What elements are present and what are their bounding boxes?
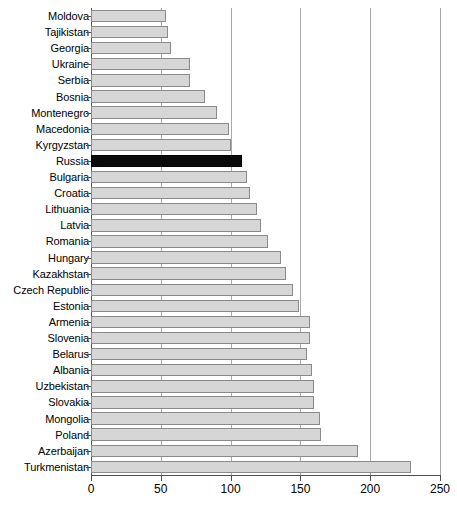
bar-row: Tajikistan bbox=[0, 24, 457, 40]
bar-poland bbox=[91, 428, 321, 440]
bar-lithuania bbox=[91, 203, 257, 215]
bar-estonia bbox=[91, 300, 299, 312]
category-label-georgia: Georgia bbox=[51, 40, 89, 56]
bar-row: Kazakhstan bbox=[0, 266, 457, 282]
category-label-poland: Poland bbox=[55, 427, 89, 443]
x-tick-mark-50 bbox=[161, 476, 162, 481]
category-label-hungary: Hungary bbox=[48, 250, 89, 266]
category-label-kyrgyzstan: Kyrgyzstan bbox=[36, 137, 89, 153]
category-label-latvia: Latvia bbox=[60, 217, 89, 233]
bar-row: Estonia bbox=[0, 298, 457, 314]
category-label-bosnia: Bosnia bbox=[56, 89, 89, 105]
x-tick-label-0: 0 bbox=[88, 482, 95, 496]
bar-row: Slovakia bbox=[0, 394, 457, 410]
bar-row: Georgia bbox=[0, 40, 457, 56]
x-tick-mark-250 bbox=[440, 476, 441, 481]
bar-row: Russia bbox=[0, 153, 457, 169]
bar-kazakhstan bbox=[91, 267, 286, 279]
bar-belarus bbox=[91, 348, 307, 360]
category-label-russia: Russia bbox=[56, 153, 89, 169]
bar-row: Czech Republic bbox=[0, 282, 457, 298]
bar-serbia bbox=[91, 74, 190, 86]
x-tick-label-250: 250 bbox=[430, 482, 450, 496]
bar-row: Moldova bbox=[0, 8, 457, 24]
x-axis-ticks: 050100150200250 bbox=[0, 476, 457, 506]
bar-georgia bbox=[91, 42, 171, 54]
bar-row: Albania bbox=[0, 362, 457, 378]
bar-row: Belarus bbox=[0, 346, 457, 362]
category-label-estonia: Estonia bbox=[53, 298, 89, 314]
category-label-slovenia: Slovenia bbox=[48, 330, 89, 346]
category-label-uzbekistan: Uzbekistan bbox=[36, 378, 89, 394]
bar-slovenia bbox=[91, 332, 310, 344]
bar-row: Latvia bbox=[0, 217, 457, 233]
x-tick-label-150: 150 bbox=[290, 482, 310, 496]
x-tick-mark-150 bbox=[300, 476, 301, 481]
bar-row: Romania bbox=[0, 233, 457, 249]
bar-row: Macedonia bbox=[0, 121, 457, 137]
bar-tajikistan bbox=[91, 26, 168, 38]
bar-row: Kyrgyzstan bbox=[0, 137, 457, 153]
bar-row: Mongolia bbox=[0, 411, 457, 427]
bar-bosnia bbox=[91, 90, 205, 102]
category-label-montenegro: Montenegro bbox=[31, 105, 89, 121]
bar-mongolia bbox=[91, 412, 320, 424]
bar-romania bbox=[91, 235, 268, 247]
bar-rows: MoldovaTajikistanGeorgiaUkraineSerbiaBos… bbox=[0, 0, 457, 475]
category-label-slovakia: Slovakia bbox=[48, 394, 89, 410]
category-label-tajikistan: Tajikistan bbox=[45, 24, 89, 40]
x-tick-mark-100 bbox=[231, 476, 232, 481]
bar-row: Armenia bbox=[0, 314, 457, 330]
bar-row: Ukraine bbox=[0, 56, 457, 72]
bar-czech-republic bbox=[91, 284, 293, 296]
category-label-belarus: Belarus bbox=[52, 346, 89, 362]
bar-row: Hungary bbox=[0, 250, 457, 266]
x-tick-mark-200 bbox=[370, 476, 371, 481]
bar-row: Lithuania bbox=[0, 201, 457, 217]
category-label-macedonia: Macedonia bbox=[36, 121, 89, 137]
category-label-lithuania: Lithuania bbox=[45, 201, 89, 217]
x-tick-label-100: 100 bbox=[221, 482, 241, 496]
x-tick-label-200: 200 bbox=[360, 482, 380, 496]
category-label-serbia: Serbia bbox=[58, 72, 89, 88]
bar-azerbaijan bbox=[91, 445, 358, 457]
bar-albania bbox=[91, 364, 312, 376]
category-label-croatia: Croatia bbox=[54, 185, 89, 201]
bar-row: Bulgaria bbox=[0, 169, 457, 185]
bar-moldova bbox=[91, 10, 166, 22]
x-tick-mark-0 bbox=[91, 476, 92, 481]
x-tick-label-50: 50 bbox=[154, 482, 167, 496]
bar-ukraine bbox=[91, 58, 190, 70]
bar-row: Montenegro bbox=[0, 105, 457, 121]
category-label-kazakhstan: Kazakhstan bbox=[33, 266, 89, 282]
category-label-romania: Romania bbox=[46, 233, 89, 249]
bar-row: Azerbaijan bbox=[0, 443, 457, 459]
bar-row: Turkmenistan bbox=[0, 459, 457, 475]
bar-croatia bbox=[91, 187, 250, 199]
bar-kyrgyzstan bbox=[91, 139, 231, 151]
bar-row: Uzbekistan bbox=[0, 378, 457, 394]
category-label-turkmenistan: Turkmenistan bbox=[24, 459, 89, 475]
bar-chart: MoldovaTajikistanGeorgiaUkraineSerbiaBos… bbox=[0, 0, 457, 521]
category-label-bulgaria: Bulgaria bbox=[49, 169, 89, 185]
bar-armenia bbox=[91, 316, 310, 328]
bar-russia bbox=[91, 155, 242, 167]
category-label-mongolia: Mongolia bbox=[45, 411, 89, 427]
category-label-ukraine: Ukraine bbox=[52, 56, 89, 72]
bar-row: Serbia bbox=[0, 72, 457, 88]
bar-slovakia bbox=[91, 396, 314, 408]
category-label-albania: Albania bbox=[53, 362, 89, 378]
category-label-czech-republic: Czech Republic bbox=[13, 282, 89, 298]
bar-row: Bosnia bbox=[0, 89, 457, 105]
bar-turkmenistan bbox=[91, 461, 411, 473]
bar-hungary bbox=[91, 251, 281, 263]
category-label-azerbaijan: Azerbaijan bbox=[38, 443, 89, 459]
category-label-armenia: Armenia bbox=[49, 314, 89, 330]
bar-macedonia bbox=[91, 123, 229, 135]
bar-row: Poland bbox=[0, 427, 457, 443]
bar-row: Croatia bbox=[0, 185, 457, 201]
bar-row: Slovenia bbox=[0, 330, 457, 346]
bar-montenegro bbox=[91, 106, 217, 118]
bar-latvia bbox=[91, 219, 261, 231]
bar-uzbekistan bbox=[91, 380, 314, 392]
